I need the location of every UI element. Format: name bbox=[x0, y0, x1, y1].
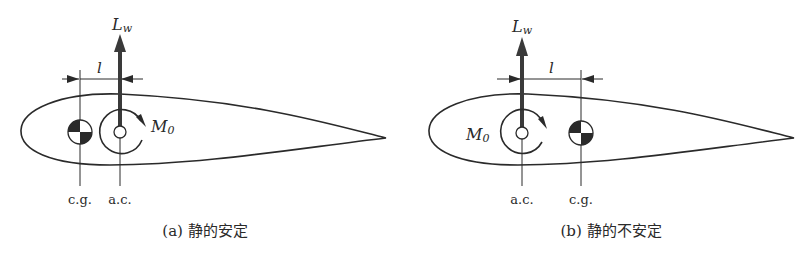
lift-label: Lw bbox=[111, 15, 133, 35]
moment-arrow: M0 bbox=[100, 110, 175, 154]
aerodynamic-center-marker bbox=[516, 127, 528, 139]
moment-label: M0 bbox=[465, 125, 489, 145]
ac-label: a.c. bbox=[108, 192, 131, 207]
center-of-gravity-icon bbox=[569, 121, 593, 145]
distance-label: l bbox=[549, 59, 554, 77]
arrow-up-icon bbox=[114, 34, 126, 52]
panel-b: l Lw M0 a.c. c.g. (b) 静的不安定 bbox=[429, 17, 794, 240]
moment-label: M0 bbox=[150, 117, 174, 137]
stability-diagram: l Lw M0 c.g. a.c. (a) 静的安定 bbox=[0, 0, 812, 258]
caption-static-stable: (a) 静的安定 bbox=[162, 222, 247, 240]
panel-a: l Lw M0 c.g. a.c. (a) 静的安定 bbox=[21, 15, 386, 240]
distance-dimension: l bbox=[497, 59, 603, 79]
arrow-up-icon bbox=[516, 37, 528, 56]
distance-label: l bbox=[97, 59, 102, 77]
distance-dimension: l bbox=[62, 59, 143, 79]
ac-label: a.c. bbox=[510, 192, 533, 207]
cg-label: c.g. bbox=[68, 192, 92, 207]
lift-label: Lw bbox=[511, 17, 533, 37]
aerodynamic-center-marker bbox=[114, 126, 126, 138]
caption-static-unstable: (b) 静的不安定 bbox=[560, 222, 661, 240]
center-of-gravity-icon bbox=[68, 120, 92, 144]
cg-label: c.g. bbox=[569, 192, 593, 207]
airfoil-outline bbox=[429, 94, 794, 165]
moment-arrow: M0 bbox=[465, 109, 547, 153]
